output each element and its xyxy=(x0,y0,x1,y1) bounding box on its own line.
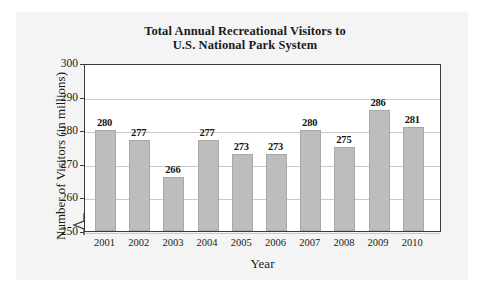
bar[interactable] xyxy=(334,147,355,231)
bar[interactable] xyxy=(232,154,253,231)
x-axis-tick-label: 2010 xyxy=(392,237,432,248)
y-axis-tick-label: 300 xyxy=(52,57,78,69)
y-axis-tick-label: 260 xyxy=(52,191,78,203)
bar-value-label: 273 xyxy=(256,141,296,152)
bar[interactable] xyxy=(266,154,287,231)
x-axis-label: Year xyxy=(84,256,441,272)
chart-title: Total Annual Recreational Visitors to U.… xyxy=(60,24,430,52)
bar[interactable] xyxy=(163,177,184,231)
bar[interactable] xyxy=(369,110,390,231)
bar-value-label: 275 xyxy=(324,134,364,145)
bar-value-label: 281 xyxy=(392,114,432,125)
bar[interactable] xyxy=(198,140,219,231)
bar-value-label: 280 xyxy=(290,117,330,128)
bar[interactable] xyxy=(403,127,424,231)
gridline xyxy=(85,233,440,234)
chart-page: Total Annual Recreational Visitors to U.… xyxy=(0,0,482,294)
bar-value-label: 277 xyxy=(187,127,227,138)
y-axis-tick-label: 290 xyxy=(52,91,78,103)
bar-value-label: 286 xyxy=(358,97,398,108)
y-axis-tick-label: 280 xyxy=(52,124,78,136)
chart-title-line-2: U.S. National Park System xyxy=(60,38,430,52)
bar[interactable] xyxy=(300,130,321,231)
bar-value-label: 266 xyxy=(153,164,193,175)
bar-value-label: 277 xyxy=(119,127,159,138)
chart-title-line-1: Total Annual Recreational Visitors to xyxy=(60,24,430,38)
bar[interactable] xyxy=(95,130,116,231)
bar[interactable] xyxy=(129,140,150,231)
y-axis-tick-label: 270 xyxy=(52,158,78,170)
